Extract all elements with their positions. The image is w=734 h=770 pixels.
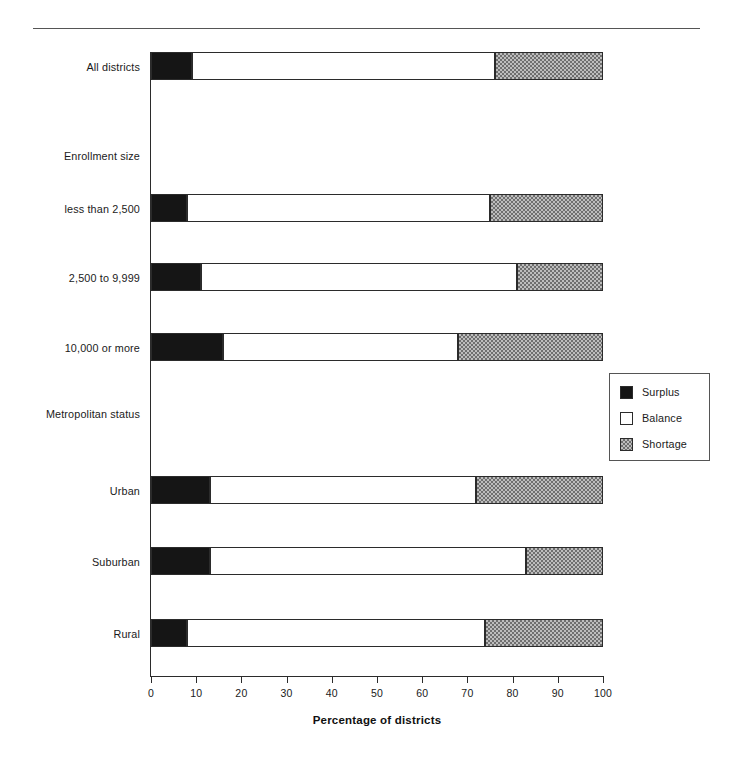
bar-segment-balance-suburban: [210, 547, 526, 575]
bar-segment-shortage-all-districts: [495, 52, 603, 80]
bar-row: [151, 476, 603, 504]
bar-row: [151, 263, 603, 291]
legend-item-balance: Balance: [620, 411, 682, 425]
bar-segment-surplus-rural: [151, 619, 187, 647]
bar-row: [151, 547, 603, 575]
x-tick-90: [558, 677, 559, 683]
category-label-all-districts: All districts: [86, 61, 140, 73]
bar-segment-surplus-2-500-to-9-999: [151, 263, 201, 291]
header-divider-rule: [33, 28, 700, 29]
x-tick-80: [513, 677, 514, 683]
x-tick-label-80: 80: [507, 687, 519, 699]
stacked-bar-chart-figure: All districtsEnrollment sizeless than 2,…: [0, 0, 734, 770]
group-heading-enrollment-size: Enrollment size: [64, 150, 140, 162]
legend-label-shortage: Shortage: [642, 438, 687, 450]
y-axis-line: [150, 52, 151, 676]
x-tick-50: [377, 677, 378, 683]
bar-row: [151, 52, 603, 80]
plot-area: 0102030405060708090100 Percentage of dis…: [151, 50, 603, 676]
category-label-suburban: Suburban: [92, 556, 140, 568]
bar-segment-balance-2-500-to-9-999: [201, 263, 517, 291]
category-label-rural: Rural: [113, 628, 140, 640]
checkered-gray-swatch: [620, 438, 633, 451]
x-axis-title: Percentage of districts: [151, 714, 603, 726]
x-tick-100: [603, 677, 604, 683]
x-tick-label-50: 50: [371, 687, 383, 699]
x-tick-10: [196, 677, 197, 683]
x-tick-40: [332, 677, 333, 683]
bar-segment-shortage-suburban: [526, 547, 603, 575]
x-tick-label-60: 60: [416, 687, 428, 699]
x-tick-label-30: 30: [281, 687, 293, 699]
bar-segment-surplus-suburban: [151, 547, 210, 575]
category-label-10-000-or-more: 10,000 or more: [65, 342, 140, 354]
x-tick-label-100: 100: [594, 687, 612, 699]
bar-segment-shortage-10-000-or-more: [458, 333, 603, 361]
legend-item-surplus: Surplus: [620, 385, 680, 399]
x-tick-30: [287, 677, 288, 683]
bar-segment-balance-all-districts: [192, 52, 495, 80]
chart-legend: SurplusBalanceShortage: [609, 373, 710, 461]
x-tick-70: [467, 677, 468, 683]
legend-label-surplus: Surplus: [642, 386, 680, 398]
x-tick-label-20: 20: [235, 687, 247, 699]
bar-segment-shortage-urban: [476, 476, 603, 504]
x-tick-label-70: 70: [461, 687, 473, 699]
legend-label-balance: Balance: [642, 412, 682, 424]
bar-segment-surplus-less-than-2-500: [151, 194, 187, 222]
x-tick-label-90: 90: [552, 687, 564, 699]
x-tick-label-40: 40: [326, 687, 338, 699]
x-tick-60: [422, 677, 423, 683]
bar-segment-surplus-urban: [151, 476, 210, 504]
white-swatch: [620, 412, 633, 425]
bar-segment-balance-less-than-2-500: [187, 194, 490, 222]
x-tick-label-0: 0: [148, 687, 154, 699]
bar-segment-shortage-less-than-2-500: [490, 194, 603, 222]
x-tick-0: [151, 677, 152, 683]
bar-segment-balance-10-000-or-more: [223, 333, 458, 361]
bar-segment-surplus-all-districts: [151, 52, 192, 80]
bar-segment-balance-urban: [210, 476, 477, 504]
x-tick-label-10: 10: [190, 687, 202, 699]
category-label-2-500-to-9-999: 2,500 to 9,999: [69, 272, 140, 284]
bar-segment-surplus-10-000-or-more: [151, 333, 223, 361]
bar-segment-balance-rural: [187, 619, 485, 647]
x-tick-20: [241, 677, 242, 683]
group-heading-metropolitan-status: Metropolitan status: [46, 408, 140, 420]
category-label-urban: Urban: [110, 485, 140, 497]
bar-row: [151, 619, 603, 647]
solid-black-swatch: [620, 386, 633, 399]
category-label-less-than-2-500: less than 2,500: [65, 203, 140, 215]
bar-row: [151, 333, 603, 361]
bar-row: [151, 194, 603, 222]
legend-item-shortage: Shortage: [620, 437, 687, 451]
bar-segment-shortage-rural: [485, 619, 603, 647]
bar-segment-shortage-2-500-to-9-999: [517, 263, 603, 291]
